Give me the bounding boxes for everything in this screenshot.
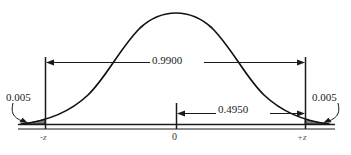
axis-tick-label-negative-z: -z — [40, 133, 47, 142]
half-area-arrowhead-left — [177, 110, 185, 116]
right-tail-leader-arrowhead — [323, 118, 332, 123]
right-tail-leader-line — [328, 103, 339, 122]
half-area-arrowhead-right — [297, 110, 305, 116]
half-area-label: 0.4950 — [218, 104, 248, 115]
central-area-arrowhead-right — [297, 59, 305, 65]
left-tail-leader-arrowhead — [20, 118, 29, 123]
axis-tick-label-positive-z: +z — [297, 133, 307, 142]
left-tail-area-label: 0.005 — [6, 92, 31, 103]
left-tail-leader-line — [12, 103, 23, 122]
axis-tick-label-zero: 0 — [172, 132, 177, 142]
central-area-label: 0.9900 — [152, 55, 182, 66]
right-tail-area-label: 0.005 — [312, 92, 337, 103]
bell-curve — [21, 13, 329, 124]
normal-distribution-figure: 0.9900 0.4950 0.005 0.005 -z 0 +z — [0, 0, 351, 155]
central-area-arrowhead-left — [46, 59, 54, 65]
